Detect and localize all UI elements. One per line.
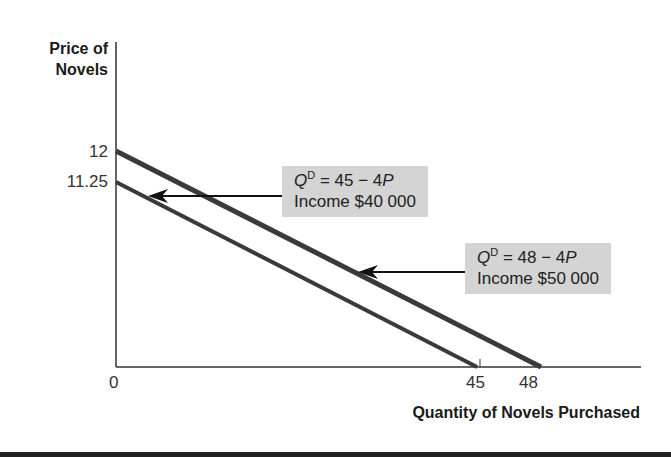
income-label-50000: Income $50 000 [477,268,599,289]
d-superscript: D [490,246,498,258]
x-axis-label: Quantity of Novels Purchased [412,404,640,422]
p-symbol: P [382,171,393,190]
d-superscript: D [307,169,315,181]
arrow-icon [358,265,465,279]
q-symbol: Q [477,248,490,267]
equation-high: QD = 48 − 4P [477,247,599,268]
q-symbol: Q [294,171,307,190]
x-tick-48: 48 [519,373,538,393]
equation-text: = 48 − 4 [498,248,565,267]
y-tick-11-25: 11.25 [67,172,108,192]
y-axis-label-line1: Price of [49,38,108,59]
y-axis-label: Price of Novels [49,38,108,80]
equation-low: QD = 45 − 4P [294,170,416,191]
equation-text: = 45 − 4 [315,171,382,190]
label-box-income-50000: QD = 48 − 4P Income $50 000 [465,243,611,294]
x-tick-0: 0 [109,373,118,393]
x-tick-45: 45 [466,373,485,393]
bottom-divider [0,452,671,457]
label-box-income-40000: QD = 45 − 4P Income $40 000 [282,166,428,217]
y-tick-12: 12 [89,142,108,162]
income-label-40000: Income $40 000 [294,191,416,212]
y-axis-label-line2: Novels [49,59,108,80]
p-symbol: P [565,248,576,267]
